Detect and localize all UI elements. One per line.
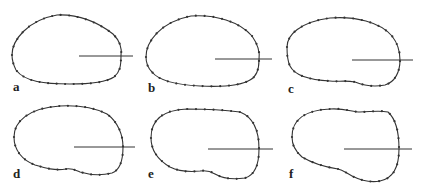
sample-point <box>13 136 15 138</box>
figure-canvas <box>0 0 423 191</box>
sample-point <box>185 170 187 172</box>
sample-point <box>227 177 229 179</box>
sample-point <box>15 128 17 130</box>
sample-point <box>162 27 164 29</box>
sample-point <box>237 83 239 85</box>
sample-point <box>108 115 110 117</box>
sample-point <box>297 120 299 122</box>
sample-point <box>114 35 116 37</box>
sample-point <box>218 175 220 177</box>
sample-point <box>393 171 395 173</box>
sample-point <box>58 105 60 107</box>
sample-point <box>120 51 122 53</box>
sample-point <box>343 17 345 19</box>
sample-point <box>212 16 214 18</box>
sample-point <box>85 18 87 20</box>
sample-point <box>355 111 357 113</box>
sample-point <box>161 160 163 162</box>
sample-point <box>193 85 195 87</box>
sample-point <box>398 69 400 71</box>
sample-point <box>167 80 169 82</box>
sample-point <box>147 65 149 67</box>
sample-point <box>150 137 152 139</box>
sample-point <box>178 18 180 20</box>
sample-point <box>92 108 94 110</box>
sample-point <box>31 163 33 165</box>
sample-point <box>370 85 372 87</box>
sample-point <box>291 136 293 138</box>
contour-outline <box>287 18 400 86</box>
sample-point <box>39 81 41 83</box>
sample-point <box>77 16 79 18</box>
sample-point <box>256 130 258 132</box>
sample-point <box>25 115 27 117</box>
sample-point <box>389 113 391 115</box>
sample-point <box>150 39 152 41</box>
sample-point <box>90 82 92 84</box>
sample-point <box>68 14 70 16</box>
sample-point <box>33 110 35 112</box>
sample-point <box>256 164 258 166</box>
sample-point <box>186 108 188 110</box>
sample-point <box>186 16 188 18</box>
sample-point <box>82 172 84 174</box>
sample-point <box>328 166 330 168</box>
sample-point <box>168 165 170 167</box>
sample-point <box>335 80 337 82</box>
sample-point <box>19 120 21 122</box>
sample-point <box>311 111 313 113</box>
sample-point <box>56 169 58 171</box>
sample-point <box>122 154 124 156</box>
sample-point <box>396 43 398 45</box>
sample-point <box>391 35 393 37</box>
panel-f <box>291 108 412 183</box>
sample-point <box>43 17 45 19</box>
sample-point <box>344 80 346 82</box>
sample-point <box>64 83 66 85</box>
sample-point <box>252 122 254 124</box>
sample-point <box>16 70 18 72</box>
sample-point <box>145 56 147 58</box>
sample-point <box>393 120 395 122</box>
contour-outline <box>146 16 259 87</box>
sample-point <box>297 152 299 154</box>
sample-point <box>286 46 288 48</box>
sample-point <box>18 152 20 154</box>
sample-point <box>51 15 53 17</box>
sample-point <box>329 108 331 110</box>
sample-point <box>24 158 26 160</box>
sample-point <box>293 70 295 72</box>
sample-point <box>244 177 246 179</box>
sample-point <box>294 31 296 33</box>
sample-point <box>309 77 311 79</box>
sample-point <box>12 62 14 64</box>
sample-point <box>258 60 260 62</box>
sample-point <box>318 79 320 81</box>
sample-point <box>155 120 157 122</box>
sample-point <box>184 84 186 86</box>
sample-point <box>352 17 354 19</box>
sample-point <box>28 26 30 28</box>
contour-outline <box>12 15 121 84</box>
sample-point <box>195 15 197 17</box>
sample-point <box>221 18 223 20</box>
sample-point <box>175 82 177 84</box>
sample-point <box>30 79 32 81</box>
sample-point <box>361 83 363 85</box>
sample-point <box>212 109 214 111</box>
sample-point <box>169 111 171 113</box>
sample-point <box>337 168 339 170</box>
sample-point <box>50 106 52 108</box>
sample-point <box>75 105 77 107</box>
sample-point <box>211 171 213 173</box>
sample-point <box>251 35 253 37</box>
sample-point <box>204 108 206 110</box>
sample-point <box>258 51 260 53</box>
panel-label-b: b <box>148 81 155 94</box>
panel-d <box>13 105 135 176</box>
sample-point <box>121 137 123 139</box>
sample-point <box>245 81 247 83</box>
sample-point <box>257 138 259 140</box>
contour-outline <box>151 109 259 179</box>
sample-point <box>385 29 387 31</box>
